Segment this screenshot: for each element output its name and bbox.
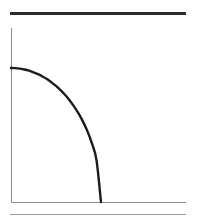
bottom-rule-divider — [10, 214, 186, 215]
plot-area — [0, 0, 198, 223]
chart-svg — [0, 0, 198, 223]
figure-root — [0, 0, 198, 223]
data-curve-line — [11, 68, 101, 202]
